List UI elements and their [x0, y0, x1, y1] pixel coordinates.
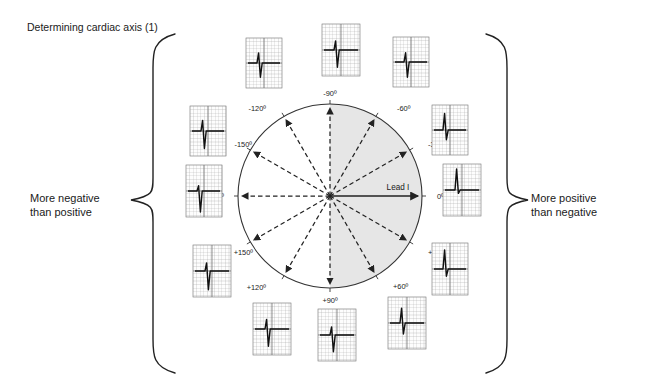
degree-label-0: -90º: [323, 89, 337, 98]
degree-label-1: -60º: [397, 104, 411, 113]
ecg-strip: [432, 243, 468, 295]
axis-ray-+120: [286, 196, 330, 272]
ecg-strip: [322, 24, 360, 76]
left-brace: [131, 34, 175, 373]
ecg-strip: [246, 38, 282, 88]
degree-label-6: +90º: [322, 296, 338, 305]
lead-i-label: Lead I: [387, 183, 410, 192]
degree-label-7: +120º: [247, 283, 267, 292]
ecg-strip: [318, 309, 356, 361]
ecg-strip: [388, 297, 426, 349]
degree-label-10: -150º: [235, 140, 253, 149]
axis-ray--120: [286, 120, 330, 196]
ecg-strip: [443, 164, 481, 216]
axis-ray--150: [254, 152, 330, 196]
ecg-strip: [432, 105, 468, 155]
axis-ray-+150: [254, 196, 330, 240]
cardiac-axis-figure: -90º-60º-30º0º+30º+60º+90º+120º+150º180º…: [0, 0, 657, 391]
degree-label-8: +150º: [234, 248, 254, 257]
ecg-strip: [186, 165, 222, 217]
right-brace: [486, 34, 528, 373]
ecg-strip: [253, 303, 291, 355]
degree-label-11: -120º: [249, 104, 267, 113]
diagram-canvas: Determining cardiac axis (1) More negati…: [0, 0, 657, 391]
ecg-strip: [190, 106, 226, 156]
degree-label-5: +60º: [393, 282, 409, 291]
ecg-strip: [193, 245, 231, 297]
ecg-strip: [393, 37, 429, 87]
